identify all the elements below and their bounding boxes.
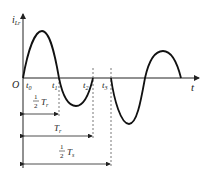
svg-text:1: 1	[34, 93, 38, 101]
svg-text:Tr: Tr	[41, 97, 49, 108]
half-ts-label: 1 2 Ts	[59, 143, 75, 160]
svg-text:Ts: Ts	[67, 147, 75, 158]
svg-text:2: 2	[34, 102, 38, 110]
svg-text:1: 1	[60, 143, 64, 151]
t0-label: t0	[26, 80, 32, 91]
t2-label: t2	[83, 80, 89, 91]
t1-label: t1	[52, 80, 58, 91]
origin-label-text: O	[12, 79, 19, 90]
waveform-segment-2	[111, 51, 181, 124]
y-axis-label: iLr	[12, 14, 21, 26]
t3-label: t3	[102, 80, 108, 91]
half-tr-label: 1 2 Tr	[33, 93, 49, 110]
x-axis-label: t	[191, 81, 195, 93]
svg-text:2: 2	[60, 152, 64, 160]
tr-label: Tr	[54, 123, 62, 134]
resonant-current-waveform-diagram: iLr t O t0 t1 t2 t3 1 2 Tr Tr 1 2 Ts	[0, 0, 207, 182]
